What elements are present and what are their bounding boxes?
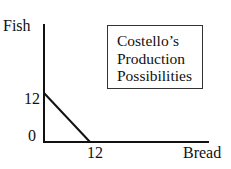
ppf-line [44, 93, 90, 142]
chart-title-box: Costello’s Production Possibilities [107, 25, 203, 89]
title-line-2: Production [117, 50, 202, 68]
x-axis-label: Bread [183, 145, 221, 161]
title-line-1: Costello’s [117, 32, 202, 50]
x-tick-12: 12 [87, 145, 103, 161]
title-line-3: Possibilities [117, 67, 202, 85]
y-tick-0: 0 [28, 128, 36, 144]
y-axis-label: Fish [3, 18, 31, 34]
y-tick-12: 12 [24, 91, 40, 107]
